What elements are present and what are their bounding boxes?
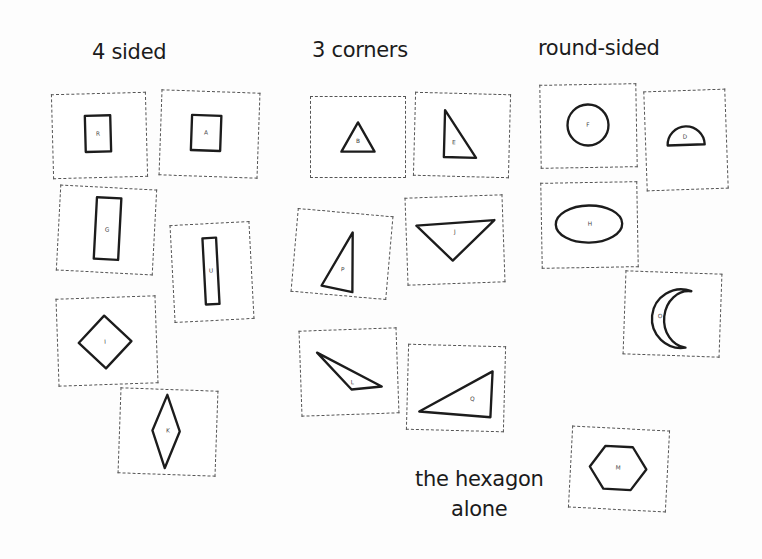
shape-label: Q xyxy=(470,396,475,402)
shape-card-j[interactable]: J xyxy=(404,194,505,285)
scalene-triangle-icon xyxy=(419,369,492,417)
equilateral-triangle-icon xyxy=(341,122,374,151)
shape-card-r[interactable]: R xyxy=(51,92,148,179)
shape-card-f[interactable]: F xyxy=(539,83,637,169)
heading-hexagon-alone: the hexagon alone xyxy=(415,464,543,524)
heading-hexagon-line1: the hexagon xyxy=(415,464,543,494)
shape-label: A xyxy=(204,129,208,135)
shape-label: M xyxy=(615,464,620,470)
shape-card-a[interactable]: A xyxy=(159,89,261,178)
shape-card-q[interactable]: Q xyxy=(406,344,506,433)
shape-card-k[interactable]: K xyxy=(118,387,219,476)
shape-label: O xyxy=(658,313,663,319)
shape-label: P xyxy=(341,266,346,272)
shape-card-o[interactable]: O xyxy=(623,270,723,357)
shape-card-u[interactable]: U xyxy=(169,221,254,323)
shape-label: J xyxy=(453,229,456,236)
inverted-triangle-icon xyxy=(416,220,495,262)
shape-label: H xyxy=(588,221,593,227)
heading-round-sided: round-sided xyxy=(538,36,660,60)
shape-label: G xyxy=(105,227,110,233)
shape-label: D xyxy=(683,134,688,140)
shape-label: B xyxy=(356,138,360,144)
acute-triangle-icon xyxy=(321,230,357,292)
shape-card-h[interactable]: H xyxy=(540,181,638,269)
heading-four-sided: 4 sided xyxy=(92,40,166,64)
right-triangle-icon xyxy=(444,110,477,158)
shape-label: I xyxy=(104,339,106,345)
heading-three-corners: 3 corners xyxy=(312,38,408,62)
shape-card-d[interactable]: D xyxy=(643,89,728,192)
shape-card-m[interactable]: M xyxy=(568,425,670,512)
shape-card-p[interactable]: P xyxy=(291,208,394,300)
shape-label: U xyxy=(209,268,214,274)
shape-card-l[interactable]: L xyxy=(299,327,400,416)
heading-hexagon-line2: alone xyxy=(415,494,543,524)
shape-label: F xyxy=(586,122,590,128)
shape-label: L xyxy=(351,379,355,385)
shape-card-g[interactable]: G xyxy=(56,185,157,276)
obtuse-triangle-icon xyxy=(317,350,382,390)
shape-card-e[interactable]: E xyxy=(413,92,511,178)
shape-label: K xyxy=(166,428,170,434)
shape-card-i[interactable]: I xyxy=(55,295,158,386)
shape-card-b[interactable]: B xyxy=(310,96,406,178)
shape-label: E xyxy=(452,139,456,145)
shape-label: R xyxy=(96,131,100,137)
